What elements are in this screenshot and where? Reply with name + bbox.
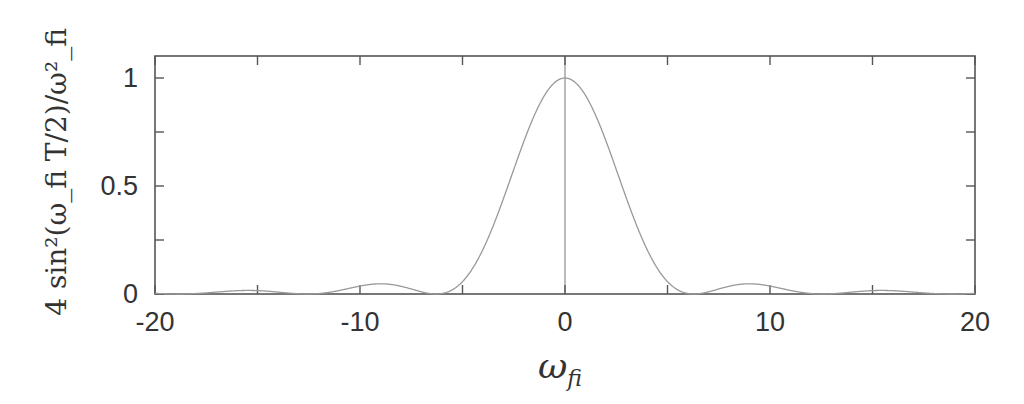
x-axis-title-subscript: fi: [565, 366, 582, 391]
y-tick-label: 0.5: [100, 171, 138, 201]
x-tick-label: -20: [135, 307, 174, 337]
x-tick-label: 0: [557, 307, 572, 337]
x-tick-label: 20: [960, 307, 990, 337]
sinc-squared-chart: -20 -10 0 10 20 0 0.5 1 ωfi 4 sin²(ω_fi …: [0, 0, 1024, 404]
x-axis-title-main: ω: [538, 345, 567, 386]
x-axis-title: ωfi: [538, 345, 582, 391]
y-axis-title: 4 sin²(ω_fi T/2)/ω²_fi: [40, 28, 73, 316]
y-tick-label: 0: [123, 279, 138, 309]
x-tick-label: 10: [755, 307, 785, 337]
x-tick-label: -10: [340, 307, 379, 337]
y-tick-label: 1: [123, 63, 138, 93]
